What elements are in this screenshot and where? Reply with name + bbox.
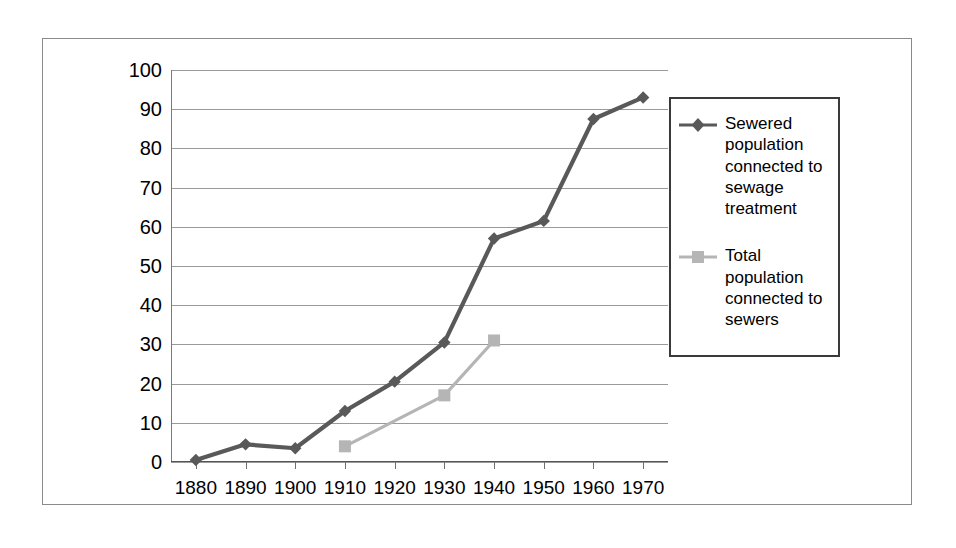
x-tick-label: 1920 <box>374 478 416 497</box>
x-tick <box>444 462 445 469</box>
y-tick-label: 60 <box>140 217 162 237</box>
data-point-diamond <box>239 438 251 450</box>
data-point-square <box>438 389 450 401</box>
data-point-diamond <box>637 91 649 103</box>
series-2 <box>339 334 500 452</box>
legend-label-sewage-treatment: Sewered population connected to sewage t… <box>725 113 830 219</box>
series-1 <box>190 91 650 466</box>
x-tick-label: 1930 <box>423 478 465 497</box>
legend-label-total-sewers: Total population connected to sewers <box>725 245 830 330</box>
x-tick <box>395 462 396 469</box>
x-tick <box>345 462 346 469</box>
x-tick <box>246 462 247 469</box>
data-point-square <box>339 440 351 452</box>
x-tick <box>544 462 545 469</box>
x-tick-label: 1900 <box>274 478 316 497</box>
y-tick-label: 90 <box>140 99 162 119</box>
y-tick-label: 10 <box>140 413 162 433</box>
x-tick-label: 1890 <box>224 478 266 497</box>
y-tick-label: 20 <box>140 374 162 394</box>
legend-entry-sewage-treatment: Sewered population connected to sewage t… <box>677 113 830 219</box>
y-tick-label: 70 <box>140 178 162 198</box>
y-tick-label: 50 <box>140 256 162 276</box>
data-point-square <box>488 334 500 346</box>
chart-figure: 0102030405060708090100 18801890190019101… <box>42 38 912 505</box>
x-tick-label: 1970 <box>622 478 664 497</box>
y-tick-label: 100 <box>129 60 162 80</box>
x-tick-label: 1880 <box>175 478 217 497</box>
plot-area: 0102030405060708090100 18801890190019101… <box>171 70 668 462</box>
x-tick-label: 1940 <box>473 478 515 497</box>
series-line <box>345 340 494 446</box>
x-tick-label: 1910 <box>324 478 366 497</box>
series-layer <box>171 70 668 462</box>
x-tick <box>295 462 296 469</box>
legend-marker-square-icon <box>677 247 719 267</box>
x-tick <box>494 462 495 469</box>
x-tick-label: 1950 <box>523 478 565 497</box>
x-tick-label: 1960 <box>572 478 614 497</box>
legend-entry-total-sewers: Total population connected to sewers <box>677 245 830 330</box>
y-tick-label: 40 <box>140 295 162 315</box>
data-point-diamond <box>190 454 202 466</box>
y-tick-label: 0 <box>151 452 162 472</box>
legend-marker-diamond-icon <box>677 115 719 135</box>
x-tick <box>643 462 644 469</box>
y-tick-label: 30 <box>140 334 162 354</box>
y-tick-label: 80 <box>140 138 162 158</box>
series-line <box>196 97 643 460</box>
chart-legend: Sewered population connected to sewage t… <box>669 97 840 357</box>
x-tick <box>593 462 594 469</box>
